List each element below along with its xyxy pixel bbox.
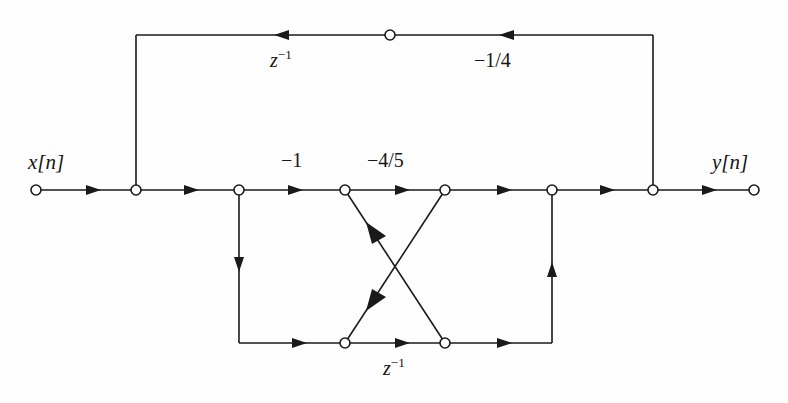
arrow-crosstr-to-join (497, 185, 512, 195)
top-delay-exponent: −1 (278, 47, 292, 62)
cross-top-left-node[interactable] (340, 185, 350, 195)
bottom-delay-label: z−1 (383, 358, 405, 378)
arrow-bottom-to-crossbl (292, 338, 307, 348)
signal-flow-graph-figure: x[n] y[n] z−1 −1/4 −1 −4/5 z−1 (0, 0, 788, 403)
cross-bottom-right-node[interactable] (440, 338, 450, 348)
bottom-delay-exponent: −1 (391, 355, 405, 370)
main-signal-path (36, 185, 754, 195)
right-branch-join-node[interactable] (547, 185, 557, 195)
branch-gain-2-label: −4/5 (367, 150, 404, 170)
arrow-input-to-tap (86, 185, 101, 195)
arrow-join-to-return (600, 185, 615, 195)
arrow-crossbr-to-right (497, 338, 512, 348)
top-delay-label: z−1 (270, 50, 292, 70)
arrow-split-to-crosstl (288, 185, 303, 195)
arrow-diagonal-down-left (366, 289, 386, 311)
cross-bottom-left-node[interactable] (340, 338, 350, 348)
input-node[interactable] (31, 185, 41, 195)
arrow-right-leg-up (547, 262, 557, 277)
arrow-top-gain-left (499, 30, 514, 40)
arrow-tap-to-split (184, 185, 199, 195)
crossing-diagonals (345, 190, 445, 343)
flow-graph-canvas (0, 0, 788, 403)
lower-delay-loop (234, 190, 557, 348)
branch-gain-1-label: −1 (281, 150, 302, 170)
top-feedback-return-node[interactable] (648, 185, 658, 195)
arrow-left-leg-down (234, 257, 244, 272)
cross-top-right-node[interactable] (440, 185, 450, 195)
arrow-return-to-output (702, 185, 717, 195)
arrow-crosstl-to-crosstr (395, 185, 410, 195)
output-node[interactable] (749, 185, 759, 195)
top-gain-label: −1/4 (474, 50, 511, 70)
input-signal-label: x[n] (28, 152, 64, 173)
arrow-crossbl-to-crossbr (395, 338, 410, 348)
arrow-diagonal-up-left (366, 222, 386, 244)
output-signal-label: y[n] (712, 152, 748, 173)
top-feedback-tap-node[interactable] (131, 185, 141, 195)
top-delay-node[interactable] (385, 30, 395, 40)
left-branch-split-node[interactable] (234, 185, 244, 195)
arrow-top-delay-left (274, 30, 289, 40)
